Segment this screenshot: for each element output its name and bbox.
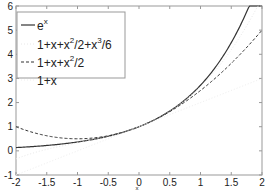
legend-label-cubic: 1+x+x2/2+x3/6 [37, 36, 112, 52]
legend: ex 1+x+x2/2+x3/6 1+x+x2/2 1+x [17, 12, 125, 88]
y-tick-label: 2 [7, 97, 13, 108]
y-tick-label: 3 [7, 73, 13, 84]
x-tick-label: 1.5 [224, 177, 238, 188]
y-tick-label: 4 [7, 49, 13, 60]
chart: -10123456 -2-1.5-1-0.500.511.52 ex 1+x+x… [0, 0, 270, 191]
x-axis-label: x [136, 185, 139, 191]
x-tick-label: -2 [12, 177, 21, 188]
x-tick-label: 0.5 [163, 177, 177, 188]
y-tick-label: 6 [7, 1, 13, 12]
x-tick-label: -0.5 [100, 177, 118, 188]
x-tick-label: -1.5 [38, 177, 56, 188]
x-tick-label: -1 [73, 177, 82, 188]
y-tick-label: 0 [7, 145, 13, 156]
linear-taylor-curve [16, 78, 262, 175]
x-tick-label: 2 [259, 177, 265, 188]
y-tick-label: 5 [7, 25, 13, 36]
y-tick-label: 1 [7, 121, 13, 132]
legend-label-linear: 1+x [37, 74, 57, 88]
x-tick-label: 1 [198, 177, 204, 188]
legend-label-quadratic: 1+x+x2/2 [37, 54, 84, 70]
